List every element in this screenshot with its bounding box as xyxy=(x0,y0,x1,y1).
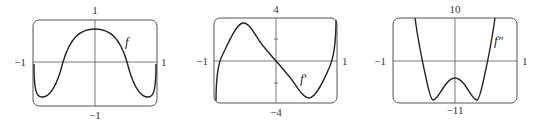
function-label-f-double-prime: f″ xyxy=(494,33,504,48)
x-max-label: 1 xyxy=(522,55,528,67)
y-max-label: 4 xyxy=(273,3,279,15)
graph-f: 1 −1 −1 1 f xyxy=(14,4,166,121)
graph-f-prime: 4 −4 −1 1 f′ xyxy=(196,3,347,118)
x-min-label: −1 xyxy=(14,56,26,68)
y-max-label: 1 xyxy=(92,4,98,16)
figure: 1 −1 −1 1 f 4 −4 −1 1 f′ 10 −11 −1 1 f″ xyxy=(0,0,544,124)
function-label-f-prime: f′ xyxy=(300,71,307,86)
x-min-label: −1 xyxy=(374,55,386,67)
function-label-f: f xyxy=(125,34,131,49)
graph-f-double-prime: 10 −11 −1 1 f″ xyxy=(374,3,527,116)
y-min-label: −4 xyxy=(270,106,282,118)
y-max-label: 10 xyxy=(450,3,462,15)
x-max-label: 1 xyxy=(161,56,167,68)
y-min-label: −11 xyxy=(447,104,464,116)
x-max-label: 1 xyxy=(342,55,348,67)
y-min-label: −1 xyxy=(89,109,101,121)
x-min-label: −1 xyxy=(196,55,208,67)
